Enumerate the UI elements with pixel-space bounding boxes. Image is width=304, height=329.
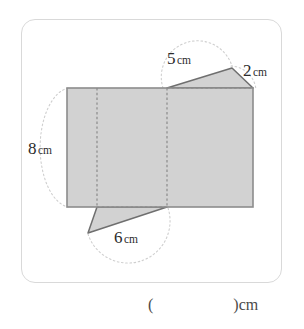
dimension-label-left-height: 8cm (28, 140, 52, 157)
dimension-value: 6 (114, 228, 123, 247)
diagram-page: 5cm 2cm 8cm 6cm ( )cm (0, 0, 304, 329)
dimension-label-top-slant: 5cm (167, 50, 191, 67)
dimension-label-bottom-slant: 6cm (114, 229, 138, 246)
dimension-value: 5 (167, 49, 176, 68)
dimension-unit: cm (253, 66, 267, 78)
dimension-label-right-slant: 2cm (243, 62, 267, 79)
dimension-unit: cm (124, 233, 138, 245)
dimension-value: 8 (28, 139, 37, 158)
dimension-unit: cm (177, 54, 191, 66)
diagram-card (21, 19, 282, 283)
answer-blank[interactable]: ( )cm (148, 297, 258, 313)
dimension-unit: cm (38, 144, 52, 156)
dimension-value: 2 (243, 61, 252, 80)
